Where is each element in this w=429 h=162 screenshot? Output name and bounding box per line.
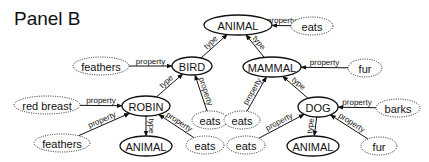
edge-type: type <box>146 116 156 136</box>
property-node-eats-robin: eats <box>186 136 224 154</box>
property-node-eats-dog: eats <box>227 136 265 154</box>
node-label: feathers <box>42 138 82 150</box>
concept-node-bird: BIRD <box>172 57 212 75</box>
node-label: fur <box>373 141 386 153</box>
node-label: ANIMAL <box>218 20 259 32</box>
edge-type: type <box>246 34 268 57</box>
property-node-feathers-robin: feathers <box>34 134 90 152</box>
property-node-fur-dog: fur <box>361 137 397 155</box>
edge-property: property <box>338 98 376 108</box>
property-node-barks: barks <box>376 99 420 117</box>
node-label: feathers <box>81 61 121 73</box>
edge-label: property <box>197 76 215 107</box>
node-label: DOG <box>305 102 330 114</box>
property-node-eats-mammal: eats <box>224 111 260 129</box>
edge-label: property <box>164 110 193 134</box>
edge-property: property <box>195 75 215 111</box>
edge-label: type <box>202 34 220 51</box>
edge-property: property <box>129 57 172 67</box>
concept-node-animal-dog: ANIMAL <box>287 136 339 156</box>
edge-property: property <box>159 110 194 138</box>
edge-label: property <box>342 98 371 107</box>
edge-label: type <box>147 118 156 134</box>
edge-property: property <box>241 77 266 112</box>
edge-property: property <box>79 110 130 136</box>
edge-label: property <box>86 96 115 105</box>
edge-arrow <box>301 67 348 68</box>
concept-node-animal-top: ANIMAL <box>204 15 272 35</box>
edge-property: property <box>80 96 122 106</box>
node-label: eats <box>236 140 257 152</box>
property-node-eats-animal: eats <box>291 17 333 35</box>
edge-type: type <box>283 75 308 98</box>
concept-node-robin: ROBIN <box>122 96 170 116</box>
edge-type: type <box>305 117 317 136</box>
property-node-fur-mammal: fur <box>348 59 382 77</box>
node-label: eats <box>195 140 216 152</box>
node-label: BIRD <box>179 61 205 73</box>
edge-label: property <box>337 111 367 134</box>
nodes-layer: ANIMALeatsBIRDfeathersMAMMALfurROBINred … <box>14 15 420 156</box>
edge-type: type <box>156 73 182 97</box>
node-label: eats <box>232 115 253 127</box>
concept-node-animal-robin: ANIMAL <box>120 136 172 156</box>
node-label: ANIMAL <box>126 141 167 153</box>
node-label: fur <box>359 63 372 75</box>
edge-property: property <box>330 111 368 139</box>
node-label: ANIMAL <box>293 141 334 153</box>
node-label: eats <box>302 21 323 33</box>
property-node-red-breast: red breast <box>14 96 80 114</box>
node-label: barks <box>385 103 412 115</box>
property-node-feathers-bird: feathers <box>73 57 129 75</box>
edge-type: type <box>201 34 227 58</box>
concept-node-dog: DOG <box>298 97 338 117</box>
node-label: MAMMAL <box>248 62 296 74</box>
semantic-network-diagram: propertytypetypepropertypropertyproperty… <box>0 0 429 162</box>
edge-property: property <box>259 111 305 138</box>
edge-label: property <box>310 58 339 67</box>
edge-property: property <box>301 58 348 68</box>
node-label: ROBIN <box>129 101 164 113</box>
edge-label: property <box>136 57 165 66</box>
property-node-eats-bird: eats <box>192 111 228 129</box>
edge-label: property <box>87 110 117 130</box>
node-label: red breast <box>22 100 72 112</box>
concept-node-mammal: MAMMAL <box>243 57 301 77</box>
node-label: eats <box>200 115 221 127</box>
